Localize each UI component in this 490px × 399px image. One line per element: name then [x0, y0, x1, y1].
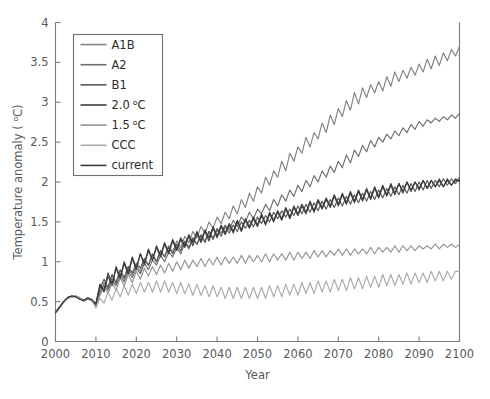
legend-label-ccc: CCC: [112, 138, 136, 152]
y-axis-tick-label: 3.5: [30, 55, 48, 69]
y-axis-tick-label: 2.5: [30, 135, 48, 149]
temperature-anomaly-line-chart: 2000201020202030204020502060207020802090…: [0, 0, 490, 399]
y-axis-tick-label: 2: [41, 175, 48, 189]
y-axis-tick-label: 1: [41, 255, 48, 269]
x-axis-tick-label: 2050: [243, 347, 272, 361]
series-line-current: [56, 180, 460, 312]
x-axis-tick-label: 2090: [404, 347, 433, 361]
legend-label-2-0: 2.0oC: [112, 98, 146, 112]
chart-figure: 2000201020202030204020502060207020802090…: [0, 0, 490, 399]
y-axis-tick-label: 1.5: [30, 215, 48, 229]
legend-label-current: current: [112, 158, 154, 172]
x-axis-title: Year: [244, 368, 270, 382]
x-axis-tick-label: 2010: [81, 347, 110, 361]
y-axis-title: Temperature anomaly ( oC): [11, 104, 25, 260]
x-axis-tick-label: 2100: [445, 347, 474, 361]
y-axis-tick-label: 0: [41, 335, 48, 349]
y-axis-tick-label: 3: [41, 95, 48, 109]
series-line-ccc: [56, 271, 460, 312]
y-axis-tick-label: 0.5: [30, 295, 48, 309]
x-axis-tick-label: 2040: [202, 347, 231, 361]
series-line-b1: [56, 177, 460, 313]
legend-label-a2: A2: [112, 58, 127, 72]
x-axis-tick-label: 2060: [283, 347, 312, 361]
series-line-2-0-oc: [56, 179, 460, 312]
x-axis-tick-label: 2000: [41, 347, 70, 361]
y-axis-tick-label: 4: [41, 16, 48, 30]
x-axis-tick-label: 2020: [122, 347, 151, 361]
legend-label-1-5: 1.5oC: [112, 118, 146, 132]
legend-label-a1b: A1B: [112, 38, 135, 52]
x-axis-tick-label: 2070: [324, 347, 353, 361]
series-line-1-5-oc: [56, 244, 460, 313]
legend-label-b1: B1: [112, 78, 127, 92]
x-axis-tick-label: 2080: [364, 347, 393, 361]
x-axis-tick-label: 2030: [162, 347, 191, 361]
